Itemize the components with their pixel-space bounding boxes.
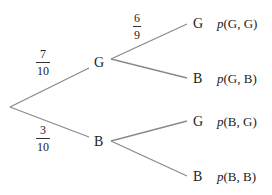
prob-first-G-denominator: 10 <box>36 65 50 77</box>
node-BB: B <box>193 170 202 184</box>
prob-second-G-given-G: 6 9 <box>133 12 141 41</box>
prob-first-G-numerator: 7 <box>39 48 47 60</box>
prob-first-B: 3 10 <box>36 124 50 153</box>
branch-G-to-G <box>111 24 187 59</box>
fraction-bar <box>36 138 50 139</box>
node-GB: B <box>193 72 202 86</box>
prob-second-numerator: 6 <box>133 12 141 24</box>
fraction-bar <box>133 26 141 27</box>
joint-prob-GB: p(G, B) <box>217 72 257 86</box>
fraction-bar <box>36 62 50 63</box>
joint-prob-GG: p(G, G) <box>217 17 257 31</box>
prob-first-B-denominator: 10 <box>36 141 50 153</box>
branch-B-to-B <box>111 141 187 176</box>
branch-B-to-G <box>111 121 187 141</box>
node-BG: G <box>193 115 203 129</box>
prob-second-denominator: 9 <box>133 29 141 41</box>
joint-prob-BG: p(B, G) <box>217 115 257 129</box>
joint-prob-BB: p(B, B) <box>217 170 256 184</box>
branch-G-to-B <box>111 59 187 78</box>
node-first-B: B <box>94 135 103 149</box>
node-GG: G <box>193 17 203 31</box>
prob-first-G: 7 10 <box>36 48 50 77</box>
node-first-G: G <box>94 56 104 70</box>
prob-first-B-numerator: 3 <box>39 124 47 136</box>
